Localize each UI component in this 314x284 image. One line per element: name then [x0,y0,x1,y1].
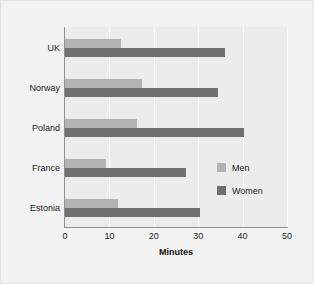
bar-poland-men[interactable] [65,119,137,128]
x-tick-label-20: 20 [139,231,169,241]
bar-norway-men[interactable] [65,79,142,88]
legend-item-men[interactable]: Men [217,159,297,176]
bar-france-women[interactable] [65,168,186,177]
legend-label-women: Women [232,186,263,196]
category-axis-labels: UKNorwayPolandFranceEstonia [1,27,60,227]
bar-norway-women[interactable] [65,88,218,97]
x-tick-label-0: 0 [50,231,80,241]
bar-chart-figure: UKNorwayPolandFranceEstonia 01020304050 … [0,0,314,284]
chart-legend: Men Women [217,159,297,205]
category-label-uk: UK [4,43,60,53]
x-axis-tick-labels: 01020304050 [1,231,314,245]
bar-estonia-men[interactable] [65,199,118,208]
x-tick-label-10: 10 [94,231,124,241]
x-tick-label-30: 30 [183,231,213,241]
category-label-poland: Poland [4,123,60,133]
bar-poland-women[interactable] [65,128,244,137]
legend-swatch-women [217,186,226,195]
x-axis-title: Minutes [65,247,287,257]
gridline [154,27,155,227]
bar-uk-women[interactable] [65,48,225,57]
x-tick-label-50: 50 [272,231,302,241]
category-label-estonia: Estonia [4,203,60,213]
legend-label-men: Men [232,163,250,173]
x-axis-line [64,227,288,228]
bar-estonia-women[interactable] [65,208,200,217]
gridline [198,27,199,227]
legend-swatch-men [217,163,226,172]
bar-france-men[interactable] [65,159,106,168]
category-label-france: France [4,163,60,173]
bar-uk-men[interactable] [65,39,121,48]
x-tick-label-40: 40 [228,231,258,241]
legend-item-women[interactable]: Women [217,182,297,199]
y-axis-line [64,27,65,228]
category-label-norway: Norway [4,83,60,93]
